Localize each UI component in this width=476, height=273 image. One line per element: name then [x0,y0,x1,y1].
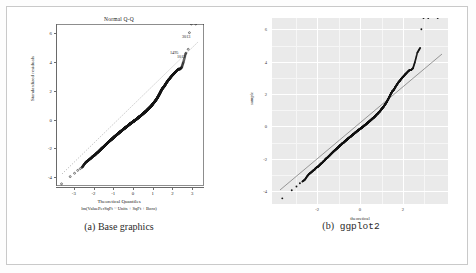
caption-lead-a: (a) [84,221,95,232]
scatter-layer-base [56,24,204,186]
y-axis-label-ggplot: sample [249,64,254,134]
caption-lead-b: (b) [322,220,334,231]
caption-text-a: Base graphics [98,221,154,232]
qq-reference-line [62,42,198,174]
panel-ggplot2: -202 -4-20246 sample theoretical (b) ggp… [240,10,462,238]
x-axis-ticks-ggplot: -202 [272,205,448,215]
y-axis-ticks-base: -4-20246 [44,24,57,186]
figure-page: Normal Q-Q 3013 1495 1012 -3-2-10123 -4-… [0,0,476,273]
x-axis-ticks-base: -3-2-10123 [56,187,204,199]
y-axis-label-base: Standardized residuals [30,19,35,139]
panel-caption-a: (a) Base graphics [14,221,224,232]
panel-caption-b: (b) ggplot2 [240,220,462,232]
qq-reference-line-ggplot [280,54,442,190]
panel-base-graphics: Normal Q-Q 3013 1495 1012 -3-2-10123 -4-… [14,10,224,238]
x-axis-label-base: Theoretical Quantiles [14,199,224,204]
outlier-label-3013: 3013 [182,34,190,39]
scatter-layer-ggplot [272,18,448,204]
plot-panel-ggplot [272,18,448,204]
plot-title: Normal Q-Q [14,16,224,22]
outlier-label-1012: 1012 [177,54,185,59]
model-formula-subtitle: lm(ValuePerSqFt ~ Units + SqFt + Boro) [14,206,224,211]
caption-text-b: ggplot2 [340,221,380,232]
